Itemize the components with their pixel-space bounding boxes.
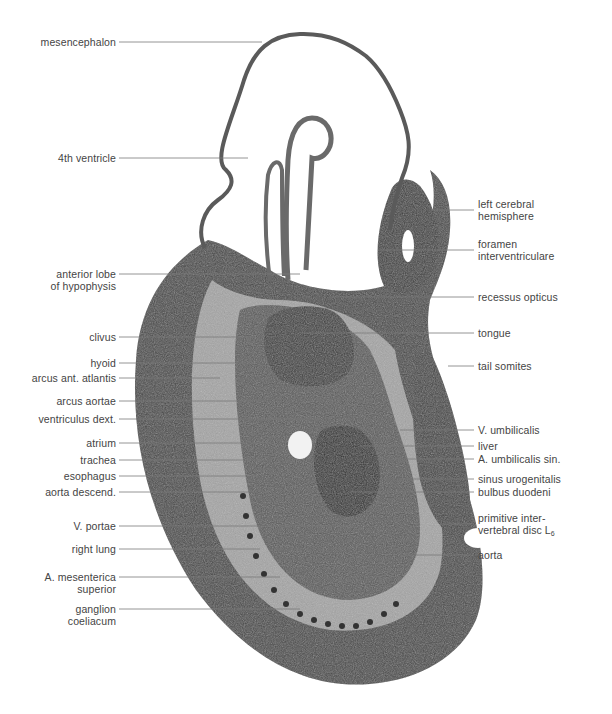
label-arcus-aortae: arcus aortae <box>56 395 116 407</box>
label-text: V. portae <box>73 520 116 532</box>
label-text: sinus urogenitalis <box>478 473 561 485</box>
label-4th-ventricle: 4th ventricle <box>58 152 116 164</box>
label-clivus: clivus <box>89 331 116 343</box>
label-text: trachea <box>80 454 116 466</box>
label-text: atrium <box>86 437 116 449</box>
label-v-portae: V. portae <box>73 520 116 532</box>
label-text-line2: interventriculare <box>478 250 554 262</box>
label-text: aorta <box>478 549 502 561</box>
label-text: tongue <box>478 327 511 339</box>
label-a-mesenterica-superior: A. mesentericasuperior <box>45 571 116 595</box>
label-hyoid: hyoid <box>90 357 116 369</box>
tongue-region <box>264 306 354 386</box>
label-text: primitive inter- <box>478 512 546 524</box>
anatomical-figure: mesencephalon4th ventricleanterior lobeo… <box>0 0 612 714</box>
label-left-cerebral-hemisphere: left cerebralhemisphere <box>478 198 534 222</box>
label-text: V. umbilicalis <box>478 424 540 436</box>
label-text-line2: of hypophysis <box>50 280 116 292</box>
label-text: arcus aortae <box>56 395 116 407</box>
label-atrium: atrium <box>86 437 116 449</box>
diencephalic-fold <box>287 118 332 280</box>
label-mesencephalon: mesencephalon <box>41 36 116 48</box>
label-tongue: tongue <box>478 327 511 339</box>
label-recessus-opticus: recessus opticus <box>478 291 558 303</box>
label-text: 4th ventricle <box>58 152 116 164</box>
label-text: anterior lobe <box>56 268 116 280</box>
label-text: recessus opticus <box>478 291 558 303</box>
label-text: aorta descend. <box>45 486 116 498</box>
label-primitive-intervertebral-disc: primitive inter-vertebral disc L6 <box>478 512 555 540</box>
label-liver: liver <box>478 440 498 452</box>
mesencephalon-wall <box>201 34 409 248</box>
label-anterior-lobe-of-hypophysis: anterior lobeof hypophysis <box>50 268 116 292</box>
label-aorta: aorta <box>478 549 502 561</box>
label-ganglion-coeliacum: ganglioncoeliacum <box>68 603 116 627</box>
label-text-line2: vertebral disc L <box>478 524 551 536</box>
label-sinus-urogenitalis: sinus urogenitalis <box>478 473 561 485</box>
label-a-umbilicalis-sin: A. umbilicalis sin. <box>478 453 560 465</box>
label-v-umbilicalis: V. umbilicalis <box>478 424 540 436</box>
label-bulbus-duodeni: bulbus duodeni <box>478 486 551 498</box>
label-esophagus: esophagus <box>64 470 116 482</box>
atrium-cavity <box>288 431 312 459</box>
label-text: A. mesenterica <box>45 571 116 583</box>
label-subscript: 6 <box>551 530 555 537</box>
label-text: ganglion <box>75 603 116 615</box>
label-text: right lung <box>72 543 116 555</box>
label-text: left cerebral <box>478 198 534 210</box>
label-arcus-ant-atlantis: arcus ant. atlantis <box>32 372 116 384</box>
label-text: arcus ant. atlantis <box>32 372 116 384</box>
label-text: hyoid <box>90 357 116 369</box>
foramen-cavity <box>402 230 414 262</box>
label-foramen-interventriculare: forameninterventriculare <box>478 238 554 262</box>
label-text: A. umbilicalis sin. <box>478 453 560 465</box>
label-text: liver <box>478 440 498 452</box>
label-tail-somites: tail somites <box>478 360 532 372</box>
label-trachea: trachea <box>80 454 116 466</box>
label-text: foramen <box>478 238 517 250</box>
label-text-line2: hemisphere <box>478 210 534 222</box>
label-ventriculus-dext: ventriculus dext. <box>38 413 116 425</box>
label-text: clivus <box>89 331 116 343</box>
label-text: tail somites <box>478 360 532 372</box>
label-text: ventriculus dext. <box>38 413 116 425</box>
label-aorta-descend: aorta descend. <box>45 486 116 498</box>
label-text-line2: coeliacum <box>68 615 116 627</box>
rathke-fold <box>266 162 284 280</box>
label-right-lung: right lung <box>72 543 116 555</box>
label-text: bulbus duodeni <box>478 486 551 498</box>
label-text: mesencephalon <box>41 36 116 48</box>
label-text-line2: superior <box>77 583 116 595</box>
label-text: esophagus <box>64 470 116 482</box>
